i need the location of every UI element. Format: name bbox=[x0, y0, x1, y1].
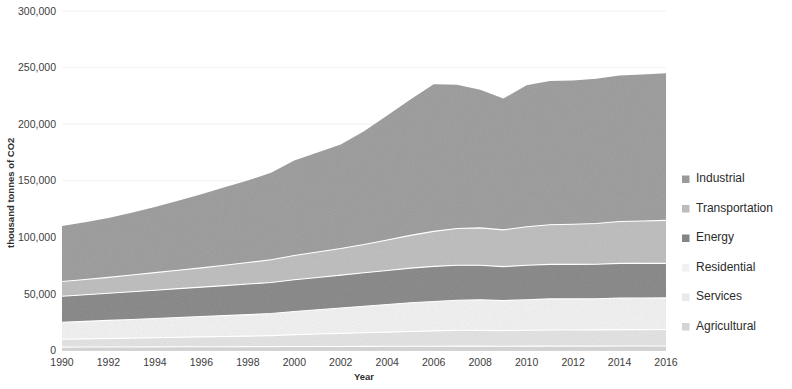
y-tick-label: 0 bbox=[50, 344, 56, 356]
y-tick-label: 200,000 bbox=[18, 118, 56, 130]
x-tick-label: 1992 bbox=[97, 356, 121, 368]
legend-swatch-icon bbox=[682, 323, 690, 331]
chart-container: 050,000100,000150,000200,000250,000300,0… bbox=[0, 0, 792, 389]
legend-item-transportation[interactable]: Transportation bbox=[682, 201, 773, 215]
x-tick-label: 2012 bbox=[561, 356, 585, 368]
x-axis-title: Year bbox=[354, 371, 374, 382]
legend-label: Agricultural bbox=[696, 319, 756, 333]
legend-swatch-icon bbox=[682, 235, 690, 243]
legend-swatch-icon bbox=[682, 176, 690, 184]
y-tick-label: 250,000 bbox=[18, 61, 56, 73]
x-tick-label: 2004 bbox=[376, 356, 400, 368]
legend-swatch-icon bbox=[682, 294, 690, 302]
y-tick-label: 150,000 bbox=[18, 174, 56, 186]
x-tick-label: 2014 bbox=[608, 356, 632, 368]
x-tick-label: 2008 bbox=[468, 356, 492, 368]
legend-label: Energy bbox=[696, 230, 734, 244]
y-tick-label: 300,000 bbox=[18, 5, 56, 17]
y-axis-title: thousand tonnes of CO2 bbox=[5, 138, 16, 248]
legend-label: Industrial bbox=[696, 171, 745, 185]
legend-swatch-icon bbox=[682, 205, 690, 213]
legend-label: Transportation bbox=[696, 201, 773, 215]
x-tick-label: 1994 bbox=[143, 356, 167, 368]
y-tick-label: 50,000 bbox=[24, 288, 56, 300]
x-tick-label: 2000 bbox=[283, 356, 307, 368]
legend-swatch-icon bbox=[682, 264, 690, 272]
legend-label: Residential bbox=[696, 260, 755, 274]
x-tick-label: 1990 bbox=[50, 356, 74, 368]
x-tick-label: 2016 bbox=[654, 356, 678, 368]
x-tick-label: 2006 bbox=[422, 356, 446, 368]
y-tick-label: 100,000 bbox=[18, 231, 56, 243]
x-tick-label: 2010 bbox=[515, 356, 539, 368]
legend-label: Services bbox=[696, 289, 742, 303]
x-tick-label: 2002 bbox=[329, 356, 353, 368]
x-tick-label: 1996 bbox=[190, 356, 214, 368]
x-tick-label: 1998 bbox=[236, 356, 260, 368]
stacked-area-chart: 050,000100,000150,000200,000250,000300,0… bbox=[0, 0, 792, 389]
